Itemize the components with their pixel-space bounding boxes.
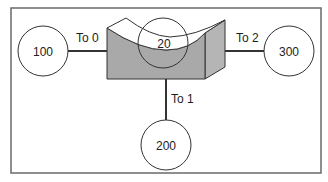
node-100-label: 100 bbox=[28, 45, 58, 59]
node-200-label: 200 bbox=[151, 139, 181, 153]
edge-label-to-1: To 1 bbox=[171, 92, 194, 106]
node-300-label: 300 bbox=[274, 45, 304, 59]
edge-label-to-2: To 2 bbox=[236, 31, 259, 45]
edge-label-to-0: To 0 bbox=[76, 31, 99, 45]
center-node-label: 20 bbox=[152, 37, 176, 51]
